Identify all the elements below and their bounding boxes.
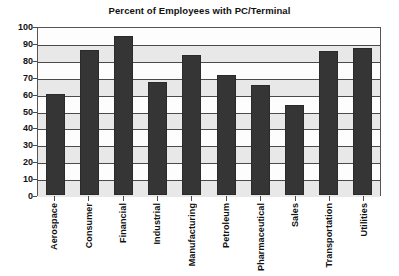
x-tick-slot [243,196,277,201]
x-axis-tick [363,196,364,201]
y-axis-tick-label: 50 [0,107,33,117]
x-axis-category-label: Financial [118,203,128,243]
x-label-slot: Consumer [71,203,105,273]
bar [353,48,372,195]
bar-series [38,28,380,195]
y-axis-tick-label: 70 [0,73,33,83]
y-axis-tick-label: 80 [0,56,33,66]
bar-slot [346,28,380,195]
x-axis-category-label: Transportation [324,203,334,267]
x-label-slot: Utilities [347,203,381,273]
x-axis-tick [226,196,227,201]
bar [251,85,270,195]
x-axis-labels: AerospaceConsumerFinancialIndustrialManu… [37,203,381,273]
x-tick-slot [209,196,243,201]
bar-slot [175,28,209,195]
bar-slot [312,28,346,195]
x-label-slot: Petroleum [209,203,243,273]
bar [217,75,236,195]
y-axis-tick-label: 20 [0,157,33,167]
x-axis-tick [295,196,296,201]
chart-title: Percent of Employees with PC/Terminal [0,5,399,16]
x-axis-category-label: Sales [290,203,300,227]
bar-slot [277,28,311,195]
x-axis-category-label: Industrial [152,203,162,245]
x-tick-slot [312,196,346,201]
y-axis: 1009080706050403020100 [0,27,33,196]
plot-area [37,27,381,196]
x-axis-category-label: Pharmaceutical [256,203,266,271]
y-axis-tick-label: 30 [0,140,33,150]
x-tick-slot [106,196,140,201]
x-axis-category-label: Utilities [359,203,369,236]
x-label-slot: Sales [278,203,312,273]
bar [80,50,99,195]
x-axis-tick [329,196,330,201]
bar-slot [38,28,72,195]
y-axis-tick-label: 60 [0,90,33,100]
y-axis-tick-label: 90 [0,39,33,49]
bar-chart: Percent of Employees with PC/Terminal 10… [0,0,399,276]
x-axis-category-label: Consumer [84,203,94,248]
x-label-slot: Aerospace [37,203,71,273]
y-axis-tick-label: 0 [0,191,33,201]
x-axis-tick [191,196,192,201]
bar-slot [72,28,106,195]
bar [46,94,65,195]
bar [182,55,201,195]
x-tick-slot [175,196,209,201]
x-label-slot: Financial [106,203,140,273]
bar-slot [209,28,243,195]
y-axis-tick-label: 100 [0,22,33,32]
x-axis-tick [54,196,55,201]
x-axis-tick [260,196,261,201]
bar [114,36,133,195]
x-label-slot: Transportation [312,203,346,273]
bar [319,51,338,195]
x-label-slot: Manufacturing [175,203,209,273]
x-tick-slot [278,196,312,201]
y-axis-tick-label: 10 [0,174,33,184]
bar [285,105,304,195]
x-axis-tick [123,196,124,201]
x-label-slot: Industrial [140,203,174,273]
bar-slot [243,28,277,195]
x-axis-tick [157,196,158,201]
x-label-slot: Pharmaceutical [243,203,277,273]
x-tick-slot [37,196,71,201]
x-tick-slot [347,196,381,201]
y-axis-tick-label: 40 [0,123,33,133]
x-axis-category-label: Aerospace [49,203,59,250]
x-tick-slot [71,196,105,201]
x-axis-ticks [37,196,381,201]
x-axis-category-label: Manufacturing [187,203,197,266]
x-tick-slot [140,196,174,201]
bar [148,82,167,195]
bar-slot [106,28,140,195]
x-axis-tick [88,196,89,201]
bar-slot [141,28,175,195]
x-axis-category-label: Petroleum [221,203,231,248]
